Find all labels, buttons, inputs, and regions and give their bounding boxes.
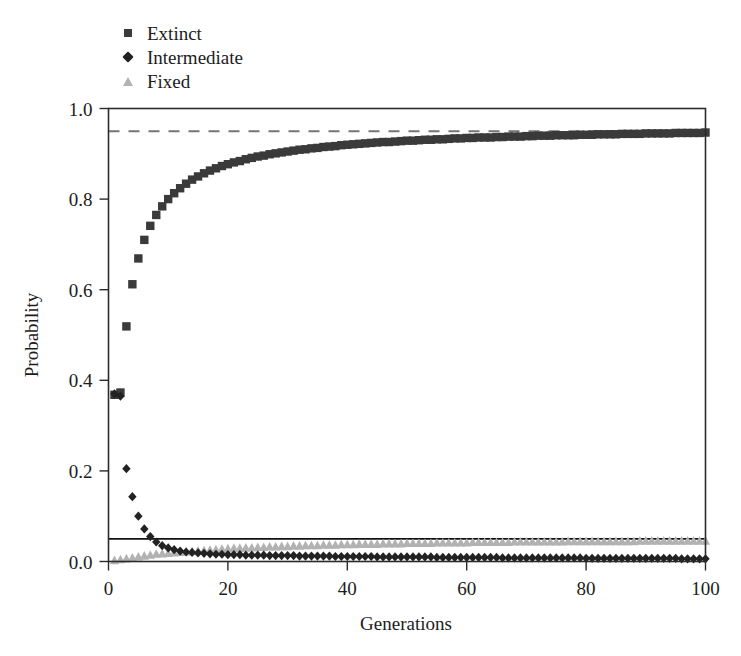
series-intermediate [110,389,709,563]
series-extinct [110,128,709,399]
data-point [134,512,142,521]
data-point [134,254,142,262]
y-tick-label: 0.4 [69,370,93,391]
x-tick-label: 100 [691,578,720,599]
data-point [140,524,148,533]
y-tick-label: 0.8 [69,189,93,210]
data-point [128,280,136,288]
x-tick-label: 40 [338,578,357,599]
y-tick-label: 0.0 [69,552,93,573]
x-tick-label: 20 [218,578,237,599]
y-tick-label: 0.2 [69,461,93,482]
x-tick-label: 80 [577,578,596,599]
data-point [122,322,130,330]
x-tick-label: 60 [457,578,476,599]
data-point [170,545,178,554]
data-series-layer [110,128,710,564]
data-point [158,202,166,210]
data-point [146,532,154,541]
chart-svg: 020406080100 0.00.20.40.60.81.0 Generati… [0,0,741,656]
data-point [140,236,148,244]
y-tick-label: 0.6 [69,280,93,301]
data-point [146,222,154,230]
x-axis-ticks: 020406080100 [104,562,720,599]
x-tick-label: 0 [104,578,114,599]
y-axis-title: Probability [21,292,42,377]
reference-lines [109,131,706,539]
y-axis-ticks: 0.00.20.40.60.81.0 [69,99,109,573]
x-axis-title: Generations [360,613,452,634]
y-tick-label: 1.0 [69,99,93,120]
chart-figure: Extinct Intermediate Fixed 020406080100 … [0,0,741,656]
data-point [122,464,130,473]
plot-area: 020406080100 0.00.20.40.60.81.0 Generati… [0,0,741,656]
data-point [152,211,160,219]
data-point [128,492,136,501]
